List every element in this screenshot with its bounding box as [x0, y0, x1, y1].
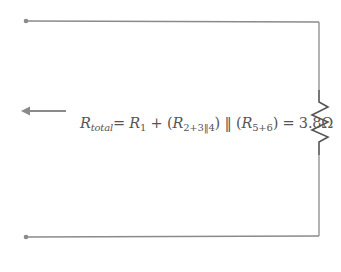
left-arrow-icon [21, 107, 66, 116]
bottom-left-terminal [24, 235, 29, 240]
r56-subscript: 5+6 [252, 122, 273, 133]
r234-subscript: 2+3‖4 [183, 122, 214, 133]
plus-open-paren: + ( [146, 115, 172, 131]
equals-sign: = [113, 115, 129, 131]
r234-symbol: R [172, 115, 183, 131]
r56-symbol: R [241, 115, 252, 131]
result-value: ) = 3.8Ω [273, 115, 334, 131]
total-resistance-formula: Rtotal= R1 + (R2+3‖4) ‖ (R5+6) = 3.8Ω [80, 115, 333, 135]
bottom-wire [26, 236, 319, 237]
circuit-diagram [0, 0, 341, 272]
top-left-terminal [24, 19, 29, 24]
parallel-operator: ) ‖ ( [215, 115, 242, 131]
r-total-subscript: total [91, 122, 113, 133]
top-wire [26, 21, 319, 22]
r1-symbol: R [129, 115, 140, 131]
r-total-symbol: R [80, 115, 91, 131]
